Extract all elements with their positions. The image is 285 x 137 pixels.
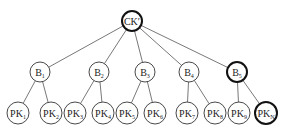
node-pk1: PK1 — [7, 102, 29, 124]
edge-B1-PK1 — [23, 81, 35, 103]
edge-B2-PK3 — [81, 81, 94, 104]
node-label: CK′ — [124, 16, 140, 27]
edge-B2-PK4 — [100, 82, 102, 102]
edge-CK-B5 — [141, 25, 228, 67]
node-pk7: PK7 — [176, 102, 198, 124]
edge-B5-PK9 — [237, 82, 238, 102]
node-pkn: PKN — [255, 102, 277, 124]
edge-CK-B3 — [134, 31, 142, 63]
node-b3: B3 — [135, 62, 155, 82]
edge-B4-PK7 — [188, 82, 189, 102]
node-b5: B5 — [227, 62, 247, 82]
node-b2: B2 — [89, 62, 109, 82]
edge-CK-B1 — [49, 26, 124, 67]
tree-diagram: CK′B1B2B3B4B5PK1PK2PK3PK4PK5PK6PK7PK8PK9… — [0, 0, 285, 137]
node-b1: B1 — [30, 62, 50, 82]
node-pk2: PK2 — [40, 102, 62, 124]
node-pk9: PK9 — [228, 102, 250, 124]
node-b4: B4 — [179, 62, 199, 82]
node-pk4: PK4 — [92, 102, 114, 124]
nodes-group: CK′B1B2B3B4B5PK1PK2PK3PK4PK5PK6PK7PK8PK9… — [7, 11, 277, 124]
node-pk6: PK6 — [144, 102, 166, 124]
node-pk3: PK3 — [64, 102, 86, 124]
tree-svg: CK′B1B2B3B4B5PK1PK2PK3PK4PK5PK6PK7PK8PK9… — [0, 0, 285, 137]
edge-CK-B4 — [139, 28, 181, 66]
edge-B5-PKN — [243, 80, 260, 104]
edge-B1-PK2 — [43, 82, 49, 103]
edge-B4-PK8 — [194, 80, 209, 103]
node-ck: CK′ — [122, 11, 142, 31]
edge-B3-PK6 — [147, 82, 152, 103]
node-pk5: PK5 — [116, 102, 138, 124]
edge-B3-PK5 — [131, 81, 141, 103]
node-pk8: PK8 — [204, 102, 226, 124]
